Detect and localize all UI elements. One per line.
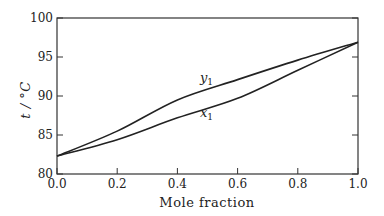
- plot-frame: [57, 18, 358, 174]
- y-tick-label: 90: [38, 89, 53, 103]
- curve-x1: [57, 42, 358, 156]
- x-tick-label: 0.6: [228, 177, 247, 191]
- y-tick-label: 85: [38, 128, 53, 142]
- x-tick-label: 0.0: [47, 177, 66, 191]
- curve-label-y1: y1: [199, 70, 213, 87]
- y-tick-label: 100: [30, 11, 53, 25]
- y-tick-label: 95: [38, 50, 53, 64]
- x-axis: 0.00.20.40.60.81.0: [47, 168, 367, 191]
- curves: [57, 42, 358, 156]
- x-tick-label: 0.8: [288, 177, 307, 191]
- y-axis-title: t / °C: [18, 81, 33, 118]
- x-tick-label: 1.0: [348, 177, 367, 191]
- x-tick-label: 0.4: [168, 177, 187, 191]
- x-axis-title: Mole fraction: [159, 195, 254, 210]
- chart: 80859095100 0.00.20.40.60.81.0 Mole frac…: [0, 0, 384, 216]
- y-axis: 80859095100: [30, 11, 358, 181]
- curve-y1: [57, 42, 358, 156]
- x-tick-label: 0.2: [108, 177, 127, 191]
